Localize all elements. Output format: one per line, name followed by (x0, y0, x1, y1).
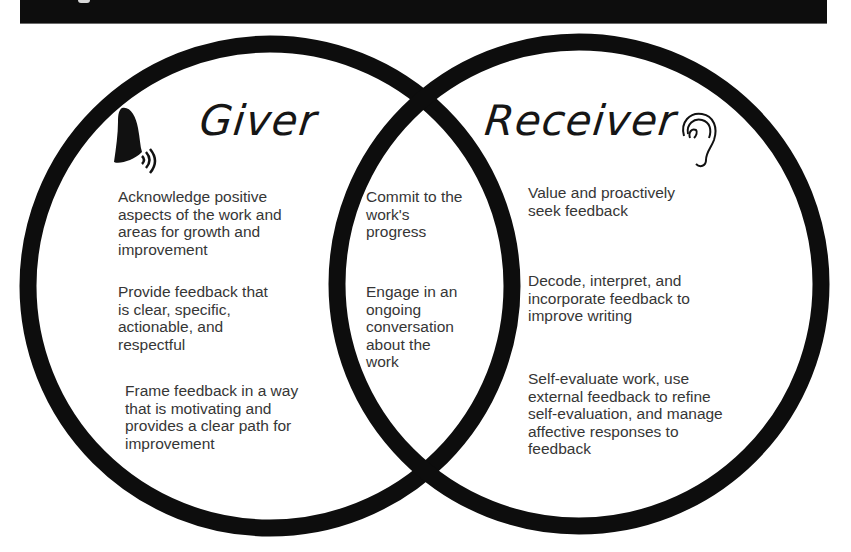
giver-item-1: Acknowledge positive aspects of the work… (118, 188, 282, 258)
receiver-item-2: Decode, interpret, and incorporate feedb… (528, 272, 690, 325)
overlap-item-2: Engage in an ongoing conversation about … (366, 283, 457, 371)
giver-title: Giver (197, 96, 319, 145)
ear-icon (676, 110, 720, 174)
giver-item-2: Provide feedback that is clear, specific… (118, 283, 268, 353)
venn-diagram (0, 0, 851, 552)
receiver-item-3: Self-evaluate work, use external feedbac… (528, 370, 723, 458)
receiver-item-1: Value and proactively seek feedback (528, 184, 675, 219)
giver-item-3: Frame feedback in a way that is motivati… (125, 382, 298, 452)
speaking-head-icon (112, 104, 162, 178)
overlap-item-1: Commit to the work's progress (366, 188, 462, 241)
receiver-title: Receiver (482, 96, 679, 145)
